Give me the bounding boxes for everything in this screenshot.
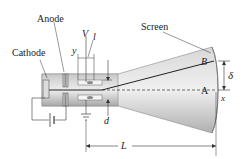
ground bbox=[81, 100, 91, 152]
d-label: d bbox=[104, 115, 110, 126]
anode-pointer bbox=[54, 22, 64, 72]
cathode bbox=[43, 80, 49, 98]
screen-pointer bbox=[163, 32, 211, 53]
anode-label: Anode bbox=[37, 13, 64, 24]
cathode-label: Cathode bbox=[12, 47, 46, 58]
A-label: A bbox=[201, 85, 209, 96]
screen-label: Screen bbox=[141, 21, 168, 32]
x-label: x bbox=[220, 93, 225, 103]
crt-diagram: Anode Cathode Screen V l y d L B A δ x bbox=[0, 0, 244, 159]
L-label: L bbox=[120, 140, 127, 151]
voltage-label: V bbox=[82, 28, 90, 39]
plate-length-label: l bbox=[93, 31, 96, 42]
B-label: B bbox=[201, 56, 207, 67]
y-label: y bbox=[71, 45, 77, 56]
delta-label: δ bbox=[228, 69, 234, 81]
